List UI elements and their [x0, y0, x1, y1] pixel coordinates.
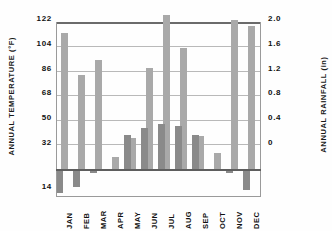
bar-rain-nov: [226, 171, 233, 173]
y-tick-right-3: 0.8: [268, 88, 281, 97]
x-label-dec: DEC: [252, 212, 261, 229]
bar-rain-dec: [243, 171, 250, 190]
y-tick-left-0: 122: [37, 14, 52, 23]
x-label-jul: JUL: [167, 213, 176, 229]
bar-rain-jan: [56, 171, 63, 193]
bar-temp-dec: [248, 26, 255, 170]
bar-rain-sep: [192, 135, 199, 170]
y-axis-left-ticks: 1221048668503214: [14, 0, 52, 231]
bar-temp-mar: [95, 60, 102, 170]
bar-rain-aug: [175, 126, 182, 170]
y-tick-left-2: 86: [42, 64, 52, 73]
y-axis-right-title: ANNUAL RAINFALL (in): [319, 47, 328, 163]
y-tick-right-4: 0.4: [268, 113, 281, 122]
x-label-aug: AUG: [184, 211, 193, 229]
bar-rain-feb: [73, 171, 80, 187]
y-tick-right-2: 1.2: [268, 64, 281, 73]
axis-line-zero-baseline: [56, 169, 261, 171]
y-tick-right-5: 0: [268, 138, 273, 147]
x-label-nov: NOV: [235, 211, 244, 229]
y-tick-left-1: 104: [37, 39, 52, 48]
plot-area: [56, 22, 261, 170]
bar-rain-may: [124, 135, 131, 170]
climate-bar-chart: ANNUAL TEMPERATURE (°F) ANNUAL RAINFALL …: [0, 0, 332, 231]
x-label-oct: OCT: [218, 212, 227, 229]
y-axis-right-ticks: 2.01.61.20.80.40: [268, 0, 308, 231]
x-label-jan: JAN: [65, 212, 74, 229]
bar-temp-nov: [231, 20, 238, 170]
y-tick-left-6: 14: [42, 182, 52, 191]
x-axis-month-labels: JANFEBMARAPRMAYJUNJULAUGSEPOCTNOVDEC: [56, 197, 261, 231]
bar-rain-mar: [90, 171, 97, 173]
x-label-apr: APR: [116, 212, 125, 229]
y-tick-left-5: 32: [42, 138, 52, 147]
bar-temp-oct: [214, 153, 221, 170]
x-label-mar: MAR: [99, 210, 108, 229]
bar-temp-feb: [78, 75, 85, 170]
x-label-may: MAY: [133, 212, 142, 229]
x-label-jun: JUN: [150, 212, 159, 229]
x-label-sep: SEP: [201, 212, 210, 229]
bar-temp-jan: [61, 33, 68, 170]
y-tick-left-3: 68: [42, 88, 52, 97]
y-tick-right-0: 2.0: [268, 14, 281, 23]
y-tick-left-4: 50: [42, 113, 52, 122]
y-tick-right-1: 1.6: [268, 39, 281, 48]
bar-rain-jun: [141, 128, 148, 170]
bar-rain-jul: [158, 124, 165, 170]
x-label-feb: FEB: [82, 213, 91, 230]
